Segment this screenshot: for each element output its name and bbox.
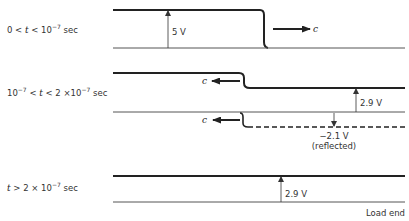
reflected-voltage-label: −2.1 V xyxy=(319,131,348,141)
voltage-label-steady: 2.9 V xyxy=(285,189,307,199)
wave-speed-label-2: c xyxy=(202,76,207,86)
transmitted-voltage-front xyxy=(113,73,405,88)
transmission-line-diagram: 0 < t < 10−7 sec 5 V c 10−7 < t < 2 ×10−… xyxy=(0,0,409,221)
reflected-wave-step xyxy=(240,113,248,127)
incident-voltage-front xyxy=(113,10,268,48)
voltage-label-5v: 5 V xyxy=(172,27,186,37)
voltage-label-2-9v: 2.9 V xyxy=(360,98,382,108)
reflected-note: (reflected) xyxy=(312,141,356,151)
load-end-label: Load end xyxy=(366,208,405,218)
time-label-2: 10−7 < t < 2 ×10−7 sec xyxy=(7,86,108,98)
time-label-1: 0 < t < 10−7 sec xyxy=(7,23,78,35)
panel-3: t > 2 × 10−7 sec 2.9 V Load end xyxy=(7,176,405,218)
panel-1: 0 < t < 10−7 sec 5 V c xyxy=(7,10,405,48)
wave-speed-label-1: c xyxy=(313,24,318,34)
time-label-3: t > 2 × 10−7 sec xyxy=(7,181,78,193)
reflected-wave-speed-label: c xyxy=(202,115,207,125)
panel-2: 10−7 < t < 2 ×10−7 sec c 2.9 V c −2.1 V … xyxy=(7,73,405,151)
